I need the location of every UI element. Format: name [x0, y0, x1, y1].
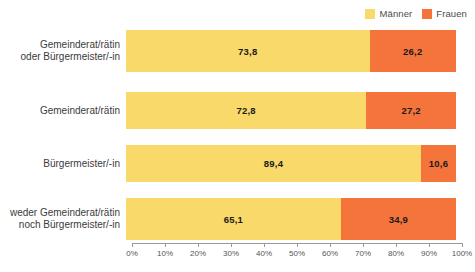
category-label: Gemeinderat/rätin: [0, 105, 126, 117]
category-label: Bürgermeister/-in: [0, 158, 126, 170]
bar-segment-maenner: 89,4: [126, 145, 421, 182]
x-axis-tick-label: 70%: [355, 249, 371, 258]
legend-label-maenner: Männer: [379, 9, 412, 19]
x-axis-tick-mark: [396, 243, 397, 247]
x-axis-tick-label: 20%: [190, 249, 206, 258]
bar-segment-frauen: 27,2: [366, 92, 456, 129]
bar-track: 65,1 34,9: [126, 198, 456, 240]
bar-segment-frauen: 26,2: [370, 30, 456, 72]
bar-track: 73,8 26,2: [126, 30, 456, 72]
bar-value-maenner: 73,8: [238, 46, 257, 57]
x-axis-tick-label: 40%: [256, 249, 272, 258]
x-axis-tick-mark: [330, 243, 331, 247]
bar-value-maenner: 72,8: [236, 105, 255, 116]
bar-value-frauen: 10,6: [429, 158, 448, 169]
x-axis-tick-mark: [165, 243, 166, 247]
x-axis-tick-label: 30%: [223, 249, 239, 258]
x-axis-tick-mark: [363, 243, 364, 247]
x-axis-tick-mark: [132, 243, 133, 247]
x-axis: 0%10%20%30%40%50%60%70%80%90%100%: [132, 243, 462, 271]
plot-area: Gemeinderat/rätin oder Bürgermeister/-in…: [0, 24, 475, 242]
x-axis-tick-mark: [198, 243, 199, 247]
bar-segment-frauen: 10,6: [421, 145, 456, 182]
bar-value-frauen: 27,2: [401, 105, 420, 116]
legend-item-maenner: Männer: [365, 9, 412, 19]
bar-value-frauen: 26,2: [403, 46, 422, 57]
x-axis-tick-label: 50%: [289, 249, 305, 258]
x-axis-tick-label: 60%: [322, 249, 338, 258]
bar-segment-maenner: 65,1: [126, 198, 341, 240]
chart-row: weder Gemeinderat/rätin noch Bürgermeist…: [0, 198, 475, 240]
chart-legend: Männer Frauen: [365, 7, 467, 21]
category-label: Gemeinderat/rätin oder Bürgermeister/-in: [0, 39, 126, 63]
x-axis-tick-mark: [462, 243, 463, 247]
bar-segment-maenner: 72,8: [126, 92, 366, 129]
x-axis-tick-mark: [264, 243, 265, 247]
x-axis-tick-mark: [231, 243, 232, 247]
x-axis-tick-label: 100%: [452, 249, 472, 258]
x-axis-tick-label: 80%: [388, 249, 404, 258]
x-axis-tick-mark: [297, 243, 298, 247]
bar-track: 89,4 10,6: [126, 145, 456, 182]
x-axis-tick-label: 10%: [157, 249, 173, 258]
bar-segment-frauen: 34,9: [341, 198, 456, 240]
bar-value-maenner: 89,4: [264, 158, 283, 169]
x-axis-tick-label: 0%: [126, 249, 138, 258]
chart-row: Gemeinderat/rätin oder Bürgermeister/-in…: [0, 30, 475, 72]
stacked-bar-chart: Männer Frauen Gemeinderat/rätin oder Bür…: [0, 0, 475, 272]
legend-label-frauen: Frauen: [436, 9, 467, 19]
bar-value-frauen: 34,9: [389, 214, 408, 225]
legend-swatch-frauen-icon: [422, 9, 432, 19]
bar-segment-maenner: 73,8: [126, 30, 370, 72]
x-axis-tick-label: 90%: [421, 249, 437, 258]
x-axis-tick-mark: [429, 243, 430, 247]
chart-row: Bürgermeister/-in 89,4 10,6: [0, 145, 475, 182]
category-label: weder Gemeinderat/rätin noch Bürgermeist…: [0, 207, 126, 231]
chart-row: Gemeinderat/rätin 72,8 27,2: [0, 92, 475, 129]
legend-swatch-maenner-icon: [365, 9, 375, 19]
legend-item-frauen: Frauen: [422, 9, 467, 19]
bar-track: 72,8 27,2: [126, 92, 456, 129]
bar-value-maenner: 65,1: [224, 214, 243, 225]
